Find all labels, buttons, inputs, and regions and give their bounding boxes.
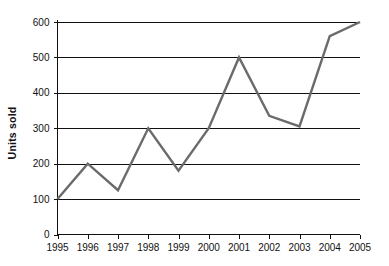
x-tick-label-1996: 1996	[77, 242, 100, 253]
y-axis-title: Units sold	[6, 107, 18, 160]
line-chart: 0100200300400500600 19951996199719981999…	[0, 0, 389, 266]
y-tick-label-500: 500	[33, 52, 50, 63]
y-tick-label-200: 200	[33, 158, 50, 169]
x-tick-label-1998: 1998	[137, 242, 160, 253]
x-tick-label-2003: 2003	[288, 242, 311, 253]
x-tick-label-1997: 1997	[107, 242, 130, 253]
x-tick-label-2004: 2004	[319, 242, 342, 253]
y-tick-label-0: 0	[44, 229, 50, 240]
x-tick-label-1999: 1999	[167, 242, 190, 253]
x-axis-tick-labels: 1995199619971998199920002001200220032004…	[46, 242, 371, 253]
y-tick-label-100: 100	[33, 194, 50, 205]
x-tick-label-2000: 2000	[198, 242, 221, 253]
y-tick-label-300: 300	[33, 123, 50, 134]
x-tick-label-2001: 2001	[228, 242, 251, 253]
chart-canvas: 0100200300400500600 19951996199719981999…	[0, 0, 389, 266]
x-tick-label-1995: 1995	[46, 242, 69, 253]
y-tick-label-600: 600	[33, 17, 50, 28]
chart-background	[0, 0, 389, 266]
x-tick-label-2005: 2005	[349, 242, 372, 253]
x-tick-label-2002: 2002	[258, 242, 281, 253]
y-tick-label-400: 400	[33, 87, 50, 98]
